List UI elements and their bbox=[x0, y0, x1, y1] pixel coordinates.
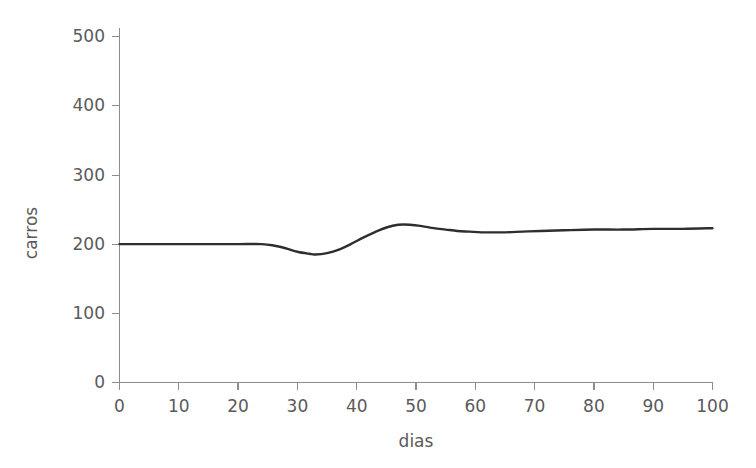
x-tick-label-50: 50 bbox=[405, 396, 427, 416]
x-tick-label-90: 90 bbox=[642, 396, 664, 416]
y-tick-label-0: 0 bbox=[94, 372, 105, 392]
x-tick-label-60: 60 bbox=[464, 396, 486, 416]
x-tick-label-40: 40 bbox=[346, 396, 368, 416]
y-tick-label-500: 500 bbox=[73, 26, 105, 46]
x-tick-label-70: 70 bbox=[524, 396, 546, 416]
y-tick-label-100: 100 bbox=[73, 303, 105, 323]
x-tick-label-80: 80 bbox=[583, 396, 605, 416]
chart-canvas: 500 400 300 200 100 0 0 10 20 30 bbox=[0, 0, 756, 468]
y-tick-label-200: 200 bbox=[73, 234, 105, 254]
x-axis-title: dias bbox=[399, 431, 434, 451]
x-tick-label-0: 0 bbox=[114, 396, 125, 416]
x-tick-label-100: 100 bbox=[696, 396, 728, 416]
y-axis-title: carros bbox=[21, 207, 41, 259]
x-tick-label-20: 20 bbox=[227, 396, 249, 416]
line-chart: 500 400 300 200 100 0 0 10 20 30 bbox=[0, 0, 756, 468]
y-tick-label-400: 400 bbox=[73, 95, 105, 115]
x-tick-label-10: 10 bbox=[168, 396, 190, 416]
x-tick-label-30: 30 bbox=[287, 396, 309, 416]
y-tick-label-300: 300 bbox=[73, 165, 105, 185]
